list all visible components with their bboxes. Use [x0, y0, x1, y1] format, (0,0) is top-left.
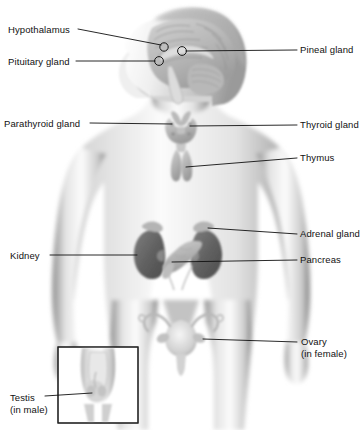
label-hypothalamus: Hypothalamus [8, 24, 70, 36]
testis-left [87, 385, 96, 396]
label-pituitary-gland: Pituitary gland [8, 56, 70, 68]
endocrine-system-figure: Hypothalamus Pituitary gland Pineal glan… [0, 0, 363, 430]
label-pineal-gland: Pineal gland [300, 44, 354, 56]
male-pelvis-inset [58, 347, 138, 423]
label-parathyroid-gland: Parathyroid gland [4, 118, 80, 130]
label-ovary-qualifier: (in female) [301, 348, 347, 360]
head-profile [119, 7, 247, 106]
label-testis: Testis [10, 392, 35, 404]
label-adrenal-gland: Adrenal gland [300, 228, 360, 240]
label-pancreas: Pancreas [300, 254, 341, 266]
label-thyroid-gland: Thyroid gland [300, 119, 359, 131]
label-testis-qualifier: (in male) [10, 404, 48, 416]
label-kidney: Kidney [10, 250, 40, 262]
label-ovary: Ovary [301, 336, 327, 348]
label-thymus: Thymus [300, 152, 334, 164]
testis-right [98, 385, 107, 396]
